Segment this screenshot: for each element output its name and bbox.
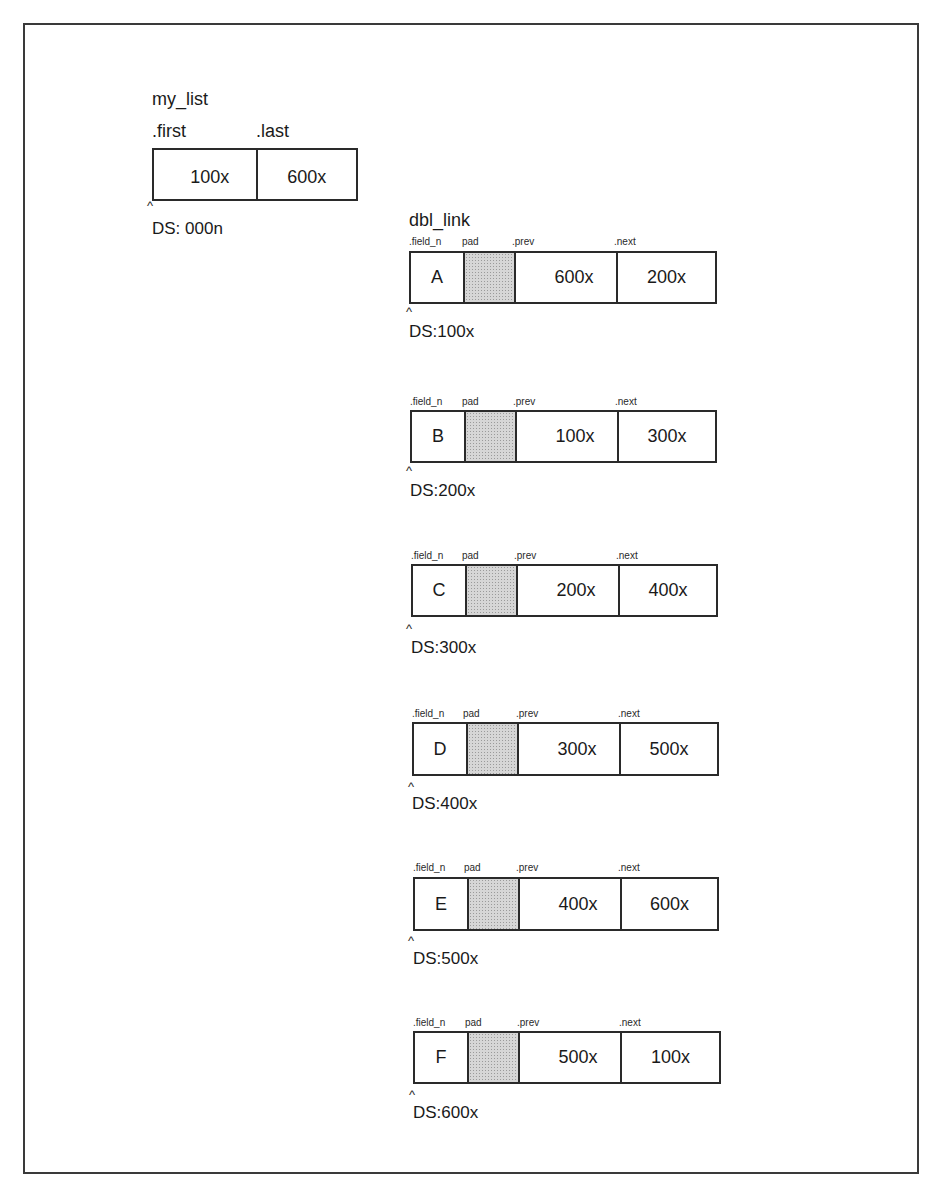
prev-label: .prev (517, 1017, 539, 1029)
my-list-box: 100x 600x (152, 148, 358, 201)
pad-cell (467, 879, 518, 929)
node-box: E 400x 600x (413, 877, 719, 931)
field-n-cell: A (411, 253, 463, 302)
next-cell: 100x (620, 1033, 719, 1082)
address-caret-icon: ^ (406, 624, 412, 634)
next-label: .next (614, 236, 636, 248)
my-list-first-label: .first (152, 121, 186, 141)
field-n-cell: C (413, 566, 465, 615)
pad-label: pad (462, 396, 479, 408)
next-cell: 600x (620, 879, 717, 929)
pad-label: pad (465, 1017, 482, 1029)
field-n-label: .field_n (413, 1017, 445, 1029)
node-box: D 300x 500x (412, 722, 719, 776)
field-n-label: .field_n (413, 862, 445, 874)
pad-label: pad (462, 550, 479, 562)
node-ds-label: DS:200x (410, 481, 475, 501)
my-list-last-label: .last (256, 121, 289, 141)
field-n-label: .field_n (411, 550, 443, 562)
pad-cell (467, 1033, 518, 1082)
address-caret-icon: ^ (409, 1090, 415, 1100)
pad-cell (463, 253, 514, 302)
prev-label: .prev (512, 236, 534, 248)
pad-label: pad (464, 862, 481, 874)
my-list-title: my_list (152, 89, 208, 109)
next-cell: 300x (617, 412, 715, 461)
prev-cell: 500x (518, 1033, 620, 1082)
pad-cell (464, 412, 515, 461)
field-n-cell: B (412, 412, 464, 461)
prev-label: .prev (516, 862, 538, 874)
pad-cell (466, 724, 517, 774)
pad-label: pad (463, 708, 480, 720)
prev-label: .prev (513, 396, 535, 408)
node-box: B 100x 300x (410, 410, 717, 463)
prev-cell: 300x (517, 724, 619, 774)
node-box: A 600x 200x (409, 251, 717, 304)
prev-label: .prev (516, 708, 538, 720)
next-cell: 400x (618, 566, 716, 615)
field-n-label: .field_n (409, 236, 441, 248)
my-list-ds-label: DS: 000n (152, 219, 223, 239)
next-label: .next (615, 396, 637, 408)
node-box: F 500x 100x (413, 1031, 721, 1084)
node-box: C 200x 400x (411, 564, 718, 617)
node-ds-label: DS:300x (411, 638, 476, 658)
address-caret-icon: ^ (406, 307, 412, 317)
prev-cell: 400x (518, 879, 620, 929)
pad-label: pad (462, 236, 479, 248)
prev-cell: 600x (514, 253, 616, 302)
next-label: .next (618, 708, 640, 720)
dbl-link-title: dbl_link (409, 210, 470, 230)
next-cell: 200x (616, 253, 715, 302)
prev-cell: 100x (515, 412, 617, 461)
address-caret-icon: ^ (408, 782, 414, 792)
address-caret-icon: ^ (147, 201, 153, 211)
next-label: .next (619, 1017, 641, 1029)
field-n-cell: D (414, 724, 466, 774)
field-n-cell: F (415, 1033, 467, 1082)
address-caret-icon: ^ (408, 936, 414, 946)
field-n-cell: E (415, 879, 467, 929)
node-ds-label: DS:500x (413, 949, 478, 969)
address-caret-icon: ^ (406, 466, 412, 476)
field-n-label: .field_n (412, 708, 444, 720)
node-ds-label: DS:600x (413, 1103, 478, 1123)
prev-cell: 200x (516, 566, 618, 615)
my-list-first-cell: 100x (154, 150, 256, 199)
prev-label: .prev (514, 550, 536, 562)
pad-cell (465, 566, 516, 615)
node-ds-label: DS:400x (412, 794, 477, 814)
my-list-last-cell: 600x (256, 150, 356, 199)
node-ds-label: DS:100x (409, 322, 474, 342)
next-label: .next (618, 862, 640, 874)
next-cell: 500x (619, 724, 717, 774)
next-label: .next (616, 550, 638, 562)
field-n-label: .field_n (410, 396, 442, 408)
